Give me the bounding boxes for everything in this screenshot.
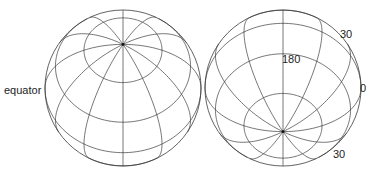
north-pole-marker	[122, 43, 125, 46]
south-pole-marker	[282, 130, 285, 133]
latitude-30-bottom-label: 30	[333, 148, 345, 160]
longitude-0-label: 0	[360, 82, 366, 94]
right-graticule	[205, 10, 361, 166]
right-globe-south-pole-view	[205, 10, 361, 166]
globe-diagram: equator 180 30 0 30	[0, 0, 374, 176]
longitude-180-label: 180	[282, 53, 300, 65]
left-globe-north-pole-view	[45, 10, 201, 166]
left-graticule	[45, 10, 201, 166]
equator-label: equator	[4, 84, 42, 96]
latitude-30-top-label: 30	[340, 28, 352, 40]
